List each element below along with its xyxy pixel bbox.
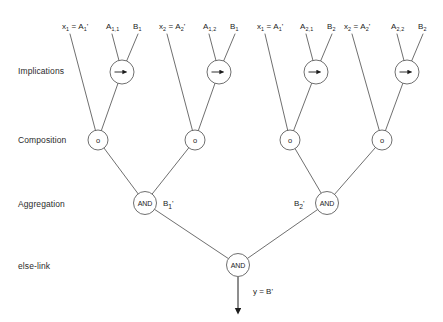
antecedent-term-group-2: A1,2 bbox=[203, 22, 216, 31]
edge-consequent-to-implication-group-3 bbox=[321, 34, 332, 61]
edge-aggregation-to-elselink-and-right bbox=[247, 210, 317, 259]
edge-aggregation-to-elselink-and-left bbox=[155, 209, 229, 258]
row-label-composition: Composition bbox=[18, 135, 66, 145]
edge-antecedent-to-implication-group-3 bbox=[306, 34, 313, 60]
consequent-term-group-4: B2 bbox=[418, 22, 427, 31]
edge-composition-to-aggregation-and-right-0 bbox=[295, 149, 321, 193]
edge-input-to-composition-group-3 bbox=[265, 34, 288, 130]
elselink-node-label: AND bbox=[231, 262, 245, 269]
aggregation-node-label-and-left: AND bbox=[138, 200, 152, 207]
antecedent-term-group-1: A1,1 bbox=[106, 22, 119, 31]
consequent-term-group-1: B1 bbox=[133, 22, 142, 31]
edge-composition-to-aggregation-and-left-0 bbox=[104, 148, 138, 194]
output-term: y = B' bbox=[253, 287, 273, 296]
edge-consequent-to-implication-group-4 bbox=[412, 34, 423, 61]
edge-implication-to-composition-group-1 bbox=[101, 83, 118, 130]
aggregation-node-label-and-right: AND bbox=[320, 200, 334, 207]
diagram-wiring bbox=[0, 0, 443, 322]
edge-antecedent-to-implication-group-1 bbox=[112, 34, 119, 60]
edge-input-to-composition-group-1 bbox=[70, 34, 95, 130]
edge-antecedent-to-implication-group-4 bbox=[397, 34, 404, 60]
input-term-group-2: x2 = A2' bbox=[159, 22, 185, 31]
composition-node-label-group-4: o bbox=[380, 136, 384, 145]
composition-node-label-group-3: o bbox=[288, 136, 292, 145]
edge-antecedent-to-implication-group-2 bbox=[209, 34, 216, 60]
aggregation-output-term-and-right: B2' bbox=[294, 199, 305, 210]
edge-implication-to-composition-group-2 bbox=[198, 83, 215, 130]
edge-consequent-to-implication-group-2 bbox=[224, 34, 235, 61]
input-term-group-1: x1 = A1' bbox=[62, 22, 88, 31]
diagram-canvas: ImplicationsCompositionAggregationelse-l… bbox=[0, 0, 443, 322]
consequent-term-group-3: B2 bbox=[327, 22, 336, 31]
edge-input-to-composition-group-4 bbox=[352, 34, 379, 130]
edge-implication-to-composition-group-4 bbox=[385, 83, 402, 130]
edge-consequent-to-implication-group-1 bbox=[127, 34, 138, 61]
antecedent-term-group-4: A2,2 bbox=[391, 22, 404, 31]
edge-composition-to-aggregation-and-left-1 bbox=[152, 148, 189, 194]
composition-node-label-group-2: o bbox=[193, 136, 197, 145]
consequent-term-group-2: B1 bbox=[230, 22, 239, 31]
edge-input-to-composition-group-2 bbox=[167, 34, 192, 130]
node-glyph-group bbox=[88, 60, 419, 311]
row-label-else-link: else-link bbox=[18, 261, 50, 271]
row-label-aggregation: Aggregation bbox=[18, 199, 65, 209]
antecedent-term-group-3: A2,1 bbox=[300, 22, 313, 31]
input-term-group-4: x2 = A2' bbox=[344, 22, 370, 31]
aggregation-output-term-and-left: B1' bbox=[163, 199, 174, 210]
edge-composition-to-aggregation-and-right-1 bbox=[335, 148, 376, 195]
edge-implication-to-composition-group-3 bbox=[294, 83, 312, 130]
row-label-implications: Implications bbox=[18, 66, 64, 76]
input-term-group-3: x1 = A1' bbox=[257, 22, 283, 31]
composition-node-label-group-1: o bbox=[96, 136, 100, 145]
